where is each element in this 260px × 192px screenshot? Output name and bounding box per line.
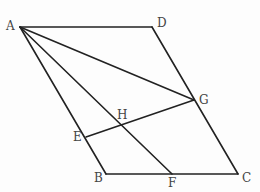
label-C: C bbox=[242, 171, 251, 185]
label-D: D bbox=[157, 16, 167, 30]
label-A: A bbox=[5, 19, 15, 33]
label-F: F bbox=[168, 176, 176, 190]
segment-BA bbox=[20, 27, 106, 174]
segment-AF bbox=[20, 27, 172, 174]
label-G: G bbox=[199, 93, 209, 107]
geometry-figure: A D G H E B F C bbox=[0, 0, 260, 192]
figure-canvas: A D G H E B F C bbox=[0, 0, 260, 192]
segment-AG bbox=[20, 27, 194, 100]
label-E: E bbox=[73, 130, 82, 144]
segment-DC bbox=[152, 27, 238, 174]
label-H: H bbox=[117, 108, 127, 122]
label-B: B bbox=[94, 171, 103, 185]
